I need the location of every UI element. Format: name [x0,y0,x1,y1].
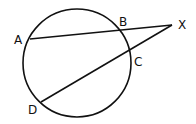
point-label-c: C [134,55,142,69]
point-label-a: A [14,33,23,47]
secant-diagram: A B X C D [0,0,196,124]
circle [23,9,131,117]
point-label-b: B [119,15,127,29]
point-label-d: D [28,103,37,117]
point-label-x: X [178,18,186,32]
